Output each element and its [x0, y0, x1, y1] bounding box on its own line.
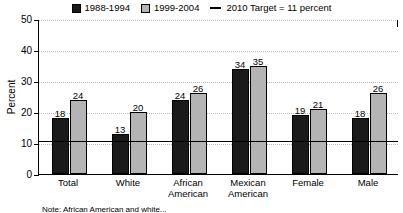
- y-axis-tick-label: 20: [21, 108, 32, 118]
- bar[interactable]: 34: [232, 69, 249, 174]
- legend-item-1999-2004: 1999-2004: [141, 3, 199, 13]
- chart-legend: 1988-1994 1999-2004 2010 Target = 11 per…: [0, 0, 403, 16]
- bar-value-label: 35: [253, 57, 264, 67]
- bar-value-label: 26: [373, 84, 384, 94]
- x-axis-category-label: Male: [358, 178, 379, 189]
- bar[interactable]: 20: [130, 112, 147, 174]
- plot-area: 01020304050182413202426343519211826: [38, 20, 398, 175]
- legend-label-target: 2010 Target = 11 percent: [226, 3, 331, 13]
- y-axis-tick: [34, 20, 39, 21]
- x-axis-category-label: White: [116, 178, 140, 189]
- bar[interactable]: 26: [190, 93, 207, 174]
- y-axis-tick: [34, 144, 39, 145]
- legend-swatch-icon-series-1: [72, 4, 81, 13]
- bar-group: 1826: [352, 20, 387, 174]
- bar-value-label: 19: [295, 106, 306, 116]
- bar-value-label: 24: [73, 91, 84, 101]
- y-axis-title: Percent: [7, 80, 17, 114]
- x-axis-category-label: Total: [58, 178, 78, 189]
- x-axis-category-label: African American: [168, 178, 208, 199]
- y-axis-tick-label: 50: [21, 15, 32, 25]
- bar-value-label: 24: [175, 91, 186, 101]
- gridline: [39, 82, 398, 83]
- bar-group: 1824: [52, 20, 87, 174]
- legend-item-1988-1994: 1988-1994: [72, 3, 130, 13]
- bar-value-label: 18: [355, 109, 366, 119]
- bar-group: 1320: [112, 20, 147, 174]
- y-axis-tick-label: 10: [21, 139, 32, 149]
- bar[interactable]: 18: [352, 118, 369, 174]
- bar[interactable]: 26: [370, 93, 387, 174]
- target-reference-line: [39, 141, 398, 142]
- legend-line-icon-target: [210, 7, 221, 9]
- bar-value-label: 21: [313, 100, 324, 110]
- bar-group: 3435: [232, 20, 267, 174]
- x-axis-labels: TotalWhiteAfrican AmericanMexican Americ…: [38, 178, 398, 202]
- bar[interactable]: 19: [292, 115, 309, 174]
- bar[interactable]: 18: [52, 118, 69, 174]
- y-axis-tick-label: 0: [26, 170, 32, 180]
- bar-value-label: 18: [55, 109, 66, 119]
- bar-value-label: 20: [133, 103, 144, 113]
- bar-value-label: 34: [235, 60, 246, 70]
- bar-chart: 1988-1994 1999-2004 2010 Target = 11 per…: [0, 0, 403, 213]
- y-axis-tick-label: 30: [21, 77, 32, 87]
- bar[interactable]: 24: [70, 100, 87, 174]
- chart-footnote: Note: African American and white...: [42, 205, 392, 213]
- gridline: [39, 144, 398, 145]
- bar[interactable]: 24: [172, 100, 189, 174]
- gridline: [39, 20, 398, 21]
- bar-group: 2426: [172, 20, 207, 174]
- bar-group: 1921: [292, 20, 327, 174]
- y-axis-tick-label: 40: [21, 46, 32, 56]
- gridline: [39, 113, 398, 114]
- legend-item-target-line: 2010 Target = 11 percent: [210, 3, 331, 13]
- bar-value-label: 26: [193, 84, 204, 94]
- legend-label-series-2: 1999-2004: [154, 3, 199, 13]
- y-axis-tick: [34, 113, 39, 114]
- x-axis-category-label: Mexican American: [228, 178, 268, 199]
- y-axis-tick: [34, 175, 39, 176]
- x-axis-category-label: Female: [292, 178, 324, 189]
- bar[interactable]: 35: [250, 66, 267, 175]
- right-axis-tick: [397, 20, 398, 27]
- gridline: [39, 51, 398, 52]
- bar[interactable]: 13: [112, 134, 129, 174]
- legend-swatch-icon-series-2: [141, 4, 150, 13]
- legend-label-series-1: 1988-1994: [85, 3, 130, 13]
- bar-value-label: 13: [115, 125, 126, 135]
- y-axis-tick: [34, 51, 39, 52]
- y-axis-tick: [34, 82, 39, 83]
